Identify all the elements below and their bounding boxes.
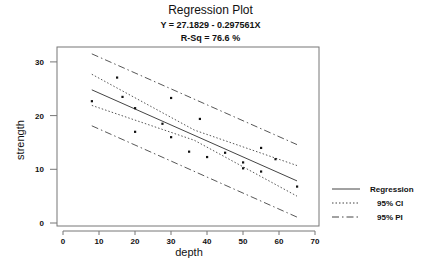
x-tick-label: 10 [95,237,104,246]
95-pi-lower-line [92,126,297,217]
regression-plot: 0102030 010203040506070 strength depth R… [0,0,421,272]
y-tick-label: 0 [40,219,45,228]
x-tick-label: 50 [239,237,248,246]
data-point [206,156,208,158]
x-tick-label: 30 [167,237,176,246]
x-tick-label: 0 [61,237,66,246]
regression-line [92,90,297,181]
x-tick-label: 40 [203,237,212,246]
data-point [121,96,123,98]
x-tick-label: 70 [311,237,320,246]
data-point [91,100,93,102]
95-ci-upper-line [92,74,297,165]
data-point [242,167,244,169]
data-point [296,185,298,187]
fit-lines [92,54,297,217]
data-point [274,158,276,160]
y-tick-label: 30 [35,58,44,67]
data-point [260,170,262,172]
data-point [260,147,262,149]
legend-label: Regression [370,185,414,194]
y-axis: 0102030 [35,58,57,228]
x-axis: 010203040506070 [61,231,320,246]
x-tick-label: 60 [275,237,284,246]
data-point [224,152,226,154]
data-point [161,123,163,125]
data-point [199,118,201,120]
95-pi-upper-line [92,54,297,145]
y-tick-label: 10 [35,165,44,174]
data-point [134,107,136,109]
legend: Regression95% CI95% PI [332,185,414,222]
data-point [170,136,172,138]
y-axis-label: strength [14,120,26,160]
data-point [170,97,172,99]
data-point [134,131,136,133]
x-axis-label: depth [175,246,203,258]
legend-label: 95% PI [377,213,403,222]
95-ci-lower-line [92,105,297,196]
data-point [188,151,190,153]
data-point [242,161,244,163]
data-point [116,76,118,78]
x-tick-label: 20 [131,237,140,246]
y-tick-label: 20 [35,112,44,121]
legend-label: 95% CI [377,199,403,208]
